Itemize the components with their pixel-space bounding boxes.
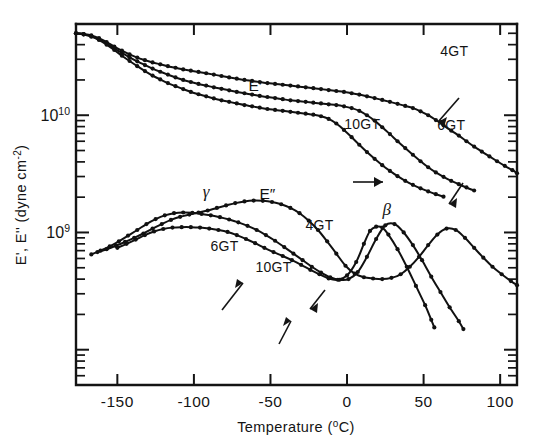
data-point [380,163,384,167]
x-tick-label: -50 [259,393,283,410]
data-point [327,102,331,106]
data-point [296,99,300,103]
data-point [403,146,407,150]
data-point [403,179,407,183]
x-tick-label: -150 [101,393,134,410]
data-point [158,70,162,74]
data-point [362,242,366,246]
data-point [166,73,170,77]
data-point [143,233,147,237]
data-point [327,117,331,121]
storage-10gt-label: 10GT [344,116,380,132]
data-point [117,239,121,243]
data-point [242,91,246,95]
data-point [357,92,361,96]
data-point [463,236,467,240]
data-point [120,54,124,58]
data-point [346,277,350,281]
data-point [166,81,170,85]
data-series-layer [74,31,519,331]
data-point [448,305,452,309]
x-tick-label: 100 [486,393,513,410]
data-point [255,228,259,232]
data-point [434,192,438,196]
y-tick-label: 109 [46,222,70,241]
data-point [372,96,376,100]
data-point [235,101,239,105]
data-point [127,59,131,63]
data-point [98,249,102,253]
data-point [365,94,369,98]
data-point [150,60,154,64]
data-point [190,211,194,215]
data-point [196,92,200,96]
data-point [227,217,231,221]
data-point [271,250,275,254]
data-point [273,108,277,112]
data-point [426,243,430,247]
data-point [279,202,283,206]
data-point [345,273,349,277]
x-tick-label: 50 [414,393,432,410]
data-point [372,157,376,161]
data-point [308,268,312,272]
data-point [97,38,101,42]
data-point [317,272,321,276]
data-point [206,208,210,212]
data-point [350,106,354,110]
data-point [441,195,445,199]
data-point [150,66,154,70]
data-point [426,113,430,117]
loss-4gt-label: 4GT [305,217,333,233]
data-point [218,215,222,219]
data-point [392,222,396,226]
data-point [89,252,93,256]
data-point [143,69,147,73]
data-point [380,226,384,230]
data-point [472,188,476,192]
data-point [365,255,369,259]
data-point [281,254,285,258]
data-point [327,276,331,280]
data-point [265,81,269,85]
x-tick-label: -100 [177,393,210,410]
data-point [196,82,200,86]
data-point [124,242,128,246]
data-point [319,101,323,105]
data-point [242,103,246,107]
data-point [449,179,453,183]
data-point [108,244,112,248]
data-point [89,35,93,39]
data-point [150,73,154,77]
data-point [189,69,193,73]
loss-10gt-label: 10GT [255,259,291,275]
data-point [402,230,406,234]
data-point [464,185,468,189]
data-point [227,75,231,79]
dma-modulus-chart: -150-100-50050100 1010109 E′E″γβ4GT6GT10… [0,0,540,445]
data-point [172,211,176,215]
data-point [350,91,354,95]
data-point [273,96,277,100]
data-point [296,84,300,88]
data-point [395,247,399,251]
data-point [265,107,269,111]
data-point [472,246,476,250]
data-point [380,98,384,102]
data-point [490,265,494,269]
storage-modulus-label: E′ [249,77,262,94]
data-point [380,125,384,129]
data-point [158,77,162,81]
data-point [311,86,315,90]
data-point [299,263,303,267]
data-point [198,226,202,230]
data-point [135,59,139,63]
data-point [135,64,139,68]
chart-canvas: -150-100-50050100 1010109 E′E″γβ4GT6GT10… [0,0,540,445]
data-point [356,270,360,274]
data-point [325,239,329,243]
data-point [350,135,354,139]
data-point [105,43,109,47]
data-point [296,111,300,115]
data-point [161,227,165,231]
